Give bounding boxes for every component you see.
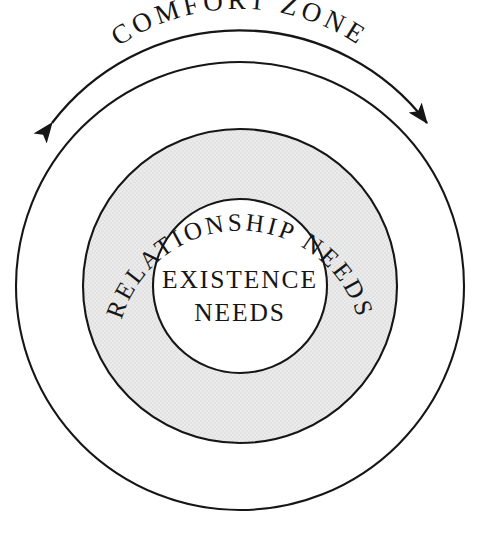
diagram-canvas: COMFORT ZONE RELATIONSHIP NEEDS EXISTENC… (0, 0, 479, 546)
existence-needs-label-line-1: EXISTENCE (162, 265, 318, 294)
comfort-zone-label: COMFORT ZONE (106, 0, 374, 52)
concentric-needs-diagram: COMFORT ZONE RELATIONSHIP NEEDS EXISTENC… (0, 0, 479, 546)
existence-needs-label-line-2: NEEDS (194, 298, 286, 327)
